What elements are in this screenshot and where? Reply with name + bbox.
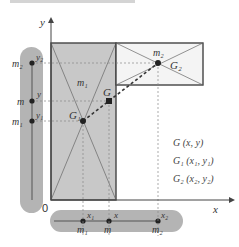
body-2-mass-label: m₂ — [153, 47, 164, 58]
body-1-mass-label: m₁ — [77, 77, 88, 88]
legend-g1: G₁ (x₁, y₁) — [173, 155, 214, 167]
origin-label: 0 — [42, 202, 48, 214]
g-label: G — [103, 86, 111, 98]
centroid-g1 — [80, 118, 86, 124]
legend-g: G (x, y) — [173, 137, 204, 149]
y-point-m — [29, 98, 34, 103]
y-proj-y2-label: y₂ — [35, 52, 43, 62]
y-proj-y-label: y — [36, 89, 41, 99]
y-proj-m2-label: m₂ — [12, 58, 23, 69]
x-proj-x-label: x — [113, 210, 118, 220]
g2-label: G₂ — [170, 59, 182, 71]
y-projection-capsule — [20, 47, 43, 213]
legend-g2: G₂ (x₂, y₂) — [173, 173, 214, 185]
y-axis-label: y — [39, 16, 45, 28]
y-proj-m-label: m — [17, 96, 24, 107]
y-point-m1 — [29, 118, 34, 123]
y-point-m2 — [29, 60, 34, 65]
x-proj-m-label: m — [104, 224, 111, 235]
x-proj-m2-label: m₂ — [152, 224, 163, 235]
g1-label: G₁ — [69, 109, 81, 121]
y-proj-m1-label: m₁ — [12, 116, 23, 127]
center-of-mass-diagram: y x 0 m₁ m₂ G₁ G₂ G m₂ y₂ m y m₁ y₁ x₁ m… — [0, 0, 239, 247]
x-axis-label: x — [212, 203, 218, 215]
x-proj-x2-label: x₂ — [160, 210, 168, 220]
centroid-g2 — [155, 60, 161, 66]
x-proj-x1-label: x₁ — [86, 210, 94, 220]
centroid-g — [106, 98, 112, 104]
x-proj-m1-label: m₁ — [77, 224, 88, 235]
y-proj-y1-label: y₁ — [35, 110, 43, 120]
